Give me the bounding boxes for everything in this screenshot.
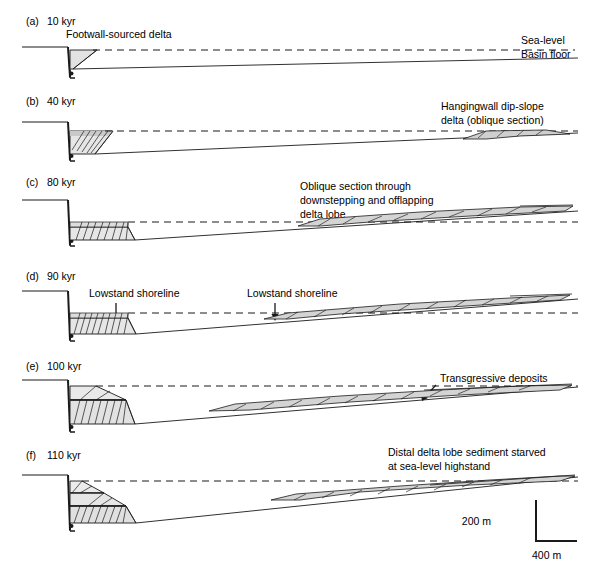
panel-d-time: 90 kyr — [47, 270, 76, 282]
label-basin-floor: Basin floor — [521, 48, 571, 60]
label-oblique-line2: downstepping and offlapping — [300, 194, 434, 206]
fault-marker-dot-e — [70, 425, 74, 429]
panel-a-time: 10 kyr — [47, 15, 76, 27]
label-lowstand-shoreline-1: Lowstand shoreline — [89, 287, 180, 299]
fault-marker-dot-d — [70, 334, 74, 338]
scale-bar-horizontal-label: 400 m — [532, 549, 561, 561]
label-transgressive-deposits: Transgressive deposits — [440, 372, 548, 384]
delta-topset-c — [70, 222, 128, 227]
label-hangingwall-line2: delta (oblique section) — [441, 114, 544, 126]
panel-f-tag: (f) — [26, 449, 36, 461]
fault-marker-dot-f — [70, 524, 74, 528]
label-distal-line2: at sea-level highstand — [388, 460, 490, 472]
delta-topset-b — [70, 131, 113, 136]
panel-d-tag: (d) — [26, 270, 39, 282]
lower-delta-wedge-e — [70, 400, 135, 424]
panel-c-time: 80 kyr — [47, 176, 76, 188]
panel-b-time: 40 kyr — [47, 95, 76, 107]
panel-b-tag: (b) — [26, 95, 39, 107]
label-oblique-line1: Oblique section through — [300, 180, 411, 192]
panel-f-time: 110 kyr — [47, 449, 81, 461]
label-sea-level: Sea-level — [521, 34, 565, 46]
label-lowstand-shoreline-2: Lowstand shoreline — [247, 287, 338, 299]
panel-e-time: 100 kyr — [47, 360, 82, 372]
panel-e-tag: (e) — [26, 360, 39, 372]
footwall-delta-wedge-d — [70, 318, 136, 334]
delta-evolution-cross-section-figure: (a) 10 kyr Footwall-sourced delta Sea-le… — [0, 0, 599, 569]
scale-bar-vertical-label: 200 m — [462, 515, 491, 527]
panel-c-tag: (c) — [26, 176, 38, 188]
label-footwall-sourced-delta: Footwall-sourced delta — [66, 28, 172, 40]
panel-a-tag: (a) — [26, 15, 39, 27]
fault-marker-dot-a — [70, 72, 74, 76]
label-hangingwall-line1: Hangingwall dip-slope — [441, 100, 544, 112]
fault-marker-dot-b — [70, 154, 74, 158]
label-distal-line1: Distal delta lobe sediment starved — [388, 446, 546, 458]
